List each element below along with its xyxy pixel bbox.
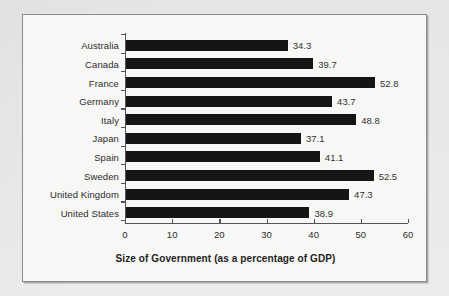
x-axis-title: Size of Government (as a percentage of G… [23, 253, 428, 264]
category-label: United Kingdom [23, 189, 119, 200]
x-axis-tick-label: 40 [308, 229, 319, 240]
bar-value-label: 34.3 [293, 40, 312, 51]
y-axis-tick [121, 90, 125, 91]
bar-value-label: 48.8 [361, 115, 380, 126]
category-label: Canada [23, 59, 119, 70]
bar-value-label: 37.1 [306, 133, 325, 144]
bar [126, 40, 288, 51]
x-axis-tick [361, 219, 362, 223]
bar-value-label: 52.5 [379, 171, 398, 182]
y-axis-tick [121, 164, 125, 165]
category-label: Germany [23, 96, 119, 107]
bar [126, 77, 375, 88]
category-label: Spain [23, 152, 119, 163]
bar-value-label: 38.9 [314, 208, 333, 219]
bar [126, 96, 332, 107]
x-axis-tick-label: 60 [403, 229, 414, 240]
category-label: France [23, 78, 119, 89]
x-axis-tick-label: 0 [122, 229, 127, 240]
y-axis-tick [121, 71, 125, 72]
bar-value-label: 47.3 [354, 189, 373, 200]
category-label: Australia [23, 40, 119, 51]
x-axis-tick [314, 219, 315, 223]
x-axis-tick [219, 219, 220, 223]
category-label: Sweden [23, 171, 119, 182]
bar [126, 114, 356, 125]
category-label: Italy [23, 115, 119, 126]
y-axis-tick [121, 183, 125, 184]
y-axis-tick [121, 146, 125, 147]
bar-value-label: 43.7 [337, 96, 356, 107]
bar-value-label: 39.7 [318, 59, 337, 70]
y-axis-tick [121, 127, 125, 128]
x-axis-tick [408, 219, 409, 223]
y-axis-tick [121, 108, 125, 109]
chart-frame: Australia34.3Canada39.7France52.8Germany… [22, 14, 427, 282]
x-axis-tick-label: 30 [261, 229, 272, 240]
category-label: Japan [23, 133, 119, 144]
bar [126, 170, 374, 181]
x-axis-tick [125, 219, 126, 223]
y-axis-tick [121, 53, 125, 54]
category-label: United States [23, 208, 119, 219]
x-axis-line [125, 223, 408, 224]
y-axis-tick [121, 34, 125, 35]
x-axis-tick-label: 10 [167, 229, 178, 240]
bar-value-label: 41.1 [325, 152, 344, 163]
bar [126, 58, 313, 69]
bar-chart-plot-area: Australia34.3Canada39.7France52.8Germany… [23, 15, 428, 283]
page-background: Australia34.3Canada39.7France52.8Germany… [0, 0, 449, 296]
bar-value-label: 52.8 [380, 78, 399, 89]
x-axis-tick-label: 20 [214, 229, 225, 240]
y-axis-tick [121, 201, 125, 202]
bar [126, 133, 301, 144]
x-axis-tick-label: 50 [356, 229, 367, 240]
x-axis-tick [267, 219, 268, 223]
bar [126, 189, 349, 200]
bar [126, 151, 320, 162]
x-axis-tick [172, 219, 173, 223]
bar [126, 207, 309, 218]
